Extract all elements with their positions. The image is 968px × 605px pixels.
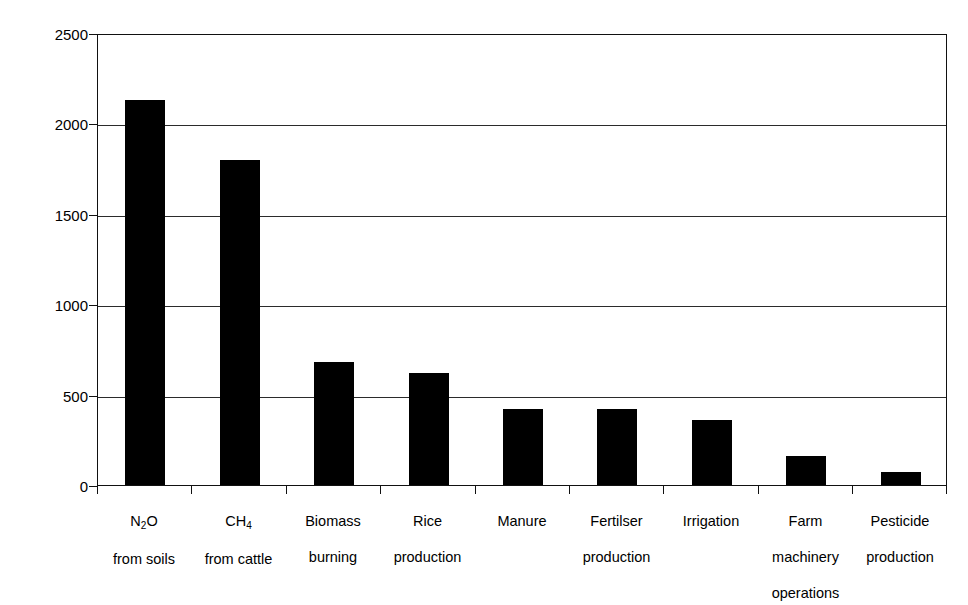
- bar-pesticide-production: [881, 472, 921, 485]
- x-label-line2: production: [853, 548, 947, 566]
- x-label-line1: N2O: [97, 512, 191, 532]
- x-label-line1: Farm: [758, 512, 853, 530]
- x-label-farm-machinery-operations: Farm machinery operations: [758, 494, 853, 605]
- x-label-line2: production: [569, 548, 664, 566]
- y-tick-mark-1500: [89, 215, 97, 216]
- x-label-rice-production: Rice production: [380, 494, 475, 584]
- x-tick-mark-5: [569, 486, 570, 494]
- x-tick-mark-2: [286, 486, 287, 494]
- x-tick-mark-4: [475, 486, 476, 494]
- x-label-line1: CH4: [191, 512, 286, 532]
- bar-biomass-burning: [314, 362, 354, 485]
- x-tick-mark-1: [191, 486, 192, 494]
- x-tick-mark-7: [758, 486, 759, 494]
- x-label-line1: Rice: [380, 512, 475, 530]
- y-tick-mark-1000: [89, 305, 97, 306]
- x-tick-mark-6: [663, 486, 664, 494]
- x-label-text: N: [130, 513, 140, 529]
- x-label-irrigation: Irrigation: [664, 494, 758, 548]
- bars-layer: [98, 35, 946, 485]
- x-label-line3: operations: [758, 584, 853, 602]
- bar-n2o-from-soils: [125, 100, 165, 485]
- x-label-biomass-burning: Biomass burning: [286, 494, 380, 584]
- x-label-text: CH: [225, 513, 246, 529]
- x-label-line2: from cattle: [191, 550, 286, 568]
- y-tick-label-1500: 1500: [36, 208, 88, 223]
- y-tick-mark-0: [89, 486, 97, 487]
- x-label-line1: Biomass: [286, 512, 380, 530]
- bar-rice-production: [409, 373, 449, 485]
- x-label-ch4-from-cattle: CH4 from cattle: [191, 494, 286, 586]
- y-tick-label-2500: 2500: [36, 27, 88, 42]
- x-label-line2: burning: [286, 548, 380, 566]
- x-label-subscript: 4: [246, 520, 252, 531]
- bar-fertilser-production: [597, 409, 637, 485]
- y-tick-mark-500: [89, 396, 97, 397]
- x-label-fertilser-production: Fertilser production: [569, 494, 664, 584]
- x-label-line2: production: [380, 548, 475, 566]
- x-label-text-b: O: [146, 513, 157, 529]
- x-tick-mark-8: [852, 486, 853, 494]
- plot-area: [97, 34, 947, 486]
- x-tick-mark-3: [380, 486, 381, 494]
- bar-irrigation: [692, 420, 732, 485]
- x-label-line1: Irrigation: [664, 512, 758, 530]
- x-label-line1: Fertilser: [569, 512, 664, 530]
- x-label-pesticide-production: Pesticide production: [853, 494, 947, 584]
- y-tick-label-500: 500: [36, 389, 88, 404]
- x-axis-category-labels: N2O from soils CH4 from cattle Biomass b…: [97, 494, 947, 566]
- y-tick-mark-2000: [89, 124, 97, 125]
- bar-ch4-from-cattle: [220, 160, 260, 485]
- x-label-subscript: 2: [141, 520, 147, 531]
- y-axis-tick-labels: 2500 2000 1500 1000 500 0: [30, 0, 88, 566]
- y-tick-mark-2500: [89, 34, 97, 35]
- x-label-n2o-from-soils: N2O from soils: [97, 494, 191, 586]
- x-label-line1: Manure: [475, 512, 569, 530]
- x-label-manure: Manure: [475, 494, 569, 548]
- x-tick-mark-0: [97, 486, 98, 494]
- x-label-line1: Pesticide: [853, 512, 947, 530]
- x-label-line2: machinery: [758, 548, 853, 566]
- x-tick-mark-9: [946, 486, 947, 494]
- y-tick-label-0: 0: [36, 479, 88, 494]
- bar-farm-machinery-operations: [786, 456, 826, 485]
- x-label-line2: from soils: [97, 550, 191, 568]
- y-tick-label-1000: 1000: [36, 298, 88, 313]
- bar-manure: [503, 409, 543, 485]
- y-tick-label-2000: 2000: [36, 117, 88, 132]
